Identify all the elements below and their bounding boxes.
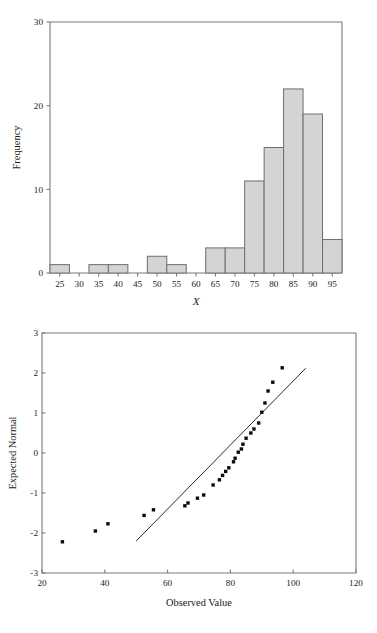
qq-data-point	[260, 411, 263, 414]
qq-data-point	[240, 447, 243, 450]
histogram-bar	[206, 248, 225, 273]
x-tick-label: 80	[269, 279, 279, 289]
qq-data-point	[61, 540, 64, 543]
x-tick-label: 120	[349, 578, 363, 588]
qq-data-point	[233, 457, 236, 460]
qq-data-point	[244, 437, 247, 440]
x-tick-label: 75	[250, 279, 260, 289]
x-tick-label: 35	[94, 279, 104, 289]
histogram-bar	[245, 181, 264, 273]
qq-data-point	[249, 431, 252, 434]
y-axis-title: Expected Normal	[7, 416, 18, 489]
qq-data-point	[237, 451, 240, 454]
qq-data-point	[241, 443, 244, 446]
x-tick-label: 85	[289, 279, 299, 289]
qq-data-point	[266, 389, 269, 392]
qq-data-point	[142, 514, 145, 517]
x-tick-label: 45	[133, 279, 143, 289]
x-tick-label: 55	[172, 279, 182, 289]
y-tick-label: 1	[33, 408, 38, 418]
qq-plot-figure: 20406080100120-3-2-10123Observed ValueEx…	[0, 316, 377, 633]
qq-data-point	[257, 421, 260, 424]
qq-data-point	[211, 483, 214, 486]
x-axis-title: X	[192, 295, 201, 307]
x-tick-label: 50	[152, 279, 162, 289]
x-tick-label: 30	[75, 279, 85, 289]
qq-data-point	[196, 497, 199, 500]
histogram-chart: 2530354045505560657075808590950102030XFr…	[0, 0, 377, 316]
qq-data-point	[218, 478, 221, 481]
qq-data-point	[221, 474, 224, 477]
x-tick-label: 80	[226, 578, 236, 588]
qq-data-point	[202, 493, 205, 496]
y-tick-label: 0	[38, 268, 43, 278]
histogram-bar	[89, 265, 108, 273]
x-tick-label: 95	[328, 279, 338, 289]
y-tick-label: -3	[30, 568, 38, 578]
qq-data-point	[224, 470, 227, 473]
x-tick-label: 25	[55, 279, 65, 289]
histogram-bar	[323, 240, 342, 273]
qq-plot-chart: 20406080100120-3-2-10123Observed ValueEx…	[0, 316, 377, 633]
qq-reference-line	[136, 368, 306, 541]
qq-data-point	[106, 522, 109, 525]
y-axis-title: Frequency	[11, 125, 22, 170]
y-tick-label: 30	[34, 17, 44, 27]
x-tick-label: 40	[100, 578, 110, 588]
histogram-bar	[303, 114, 322, 273]
y-tick-label: 3	[33, 328, 38, 338]
y-tick-label: -1	[30, 488, 38, 498]
x-tick-label: 60	[163, 578, 173, 588]
qq-data-point	[271, 381, 274, 384]
qq-data-point	[94, 529, 97, 532]
y-tick-label: 0	[33, 448, 38, 458]
qq-data-point	[152, 508, 155, 511]
x-tick-label: 70	[230, 279, 240, 289]
qq-data-point	[232, 460, 235, 463]
histogram-bar	[284, 89, 303, 273]
histogram-bar	[264, 148, 283, 274]
x-axis-title: Observed Value	[166, 597, 232, 608]
y-tick-label: 10	[34, 185, 44, 195]
histogram-bar	[147, 256, 166, 273]
histogram-figure: 2530354045505560657075808590950102030XFr…	[0, 0, 377, 316]
histogram-bar	[167, 265, 186, 273]
y-tick-label: 2	[33, 368, 38, 378]
x-tick-label: 40	[114, 279, 124, 289]
x-tick-label: 100	[286, 578, 300, 588]
qq-plot-frame	[42, 333, 356, 573]
qq-data-point	[263, 401, 266, 404]
histogram-bar	[108, 265, 127, 273]
qq-data-point	[281, 366, 284, 369]
qq-data-point	[252, 427, 255, 430]
histogram-bar	[225, 248, 244, 273]
x-tick-label: 20	[37, 578, 47, 588]
qq-data-point	[227, 466, 230, 469]
qq-data-point	[183, 504, 186, 507]
histogram-bar	[50, 265, 69, 273]
x-tick-label: 60	[191, 279, 201, 289]
x-tick-label: 65	[211, 279, 221, 289]
qq-data-point	[186, 501, 189, 504]
y-tick-label: 20	[34, 101, 44, 111]
x-tick-label: 90	[308, 279, 318, 289]
y-tick-label: -2	[30, 528, 38, 538]
